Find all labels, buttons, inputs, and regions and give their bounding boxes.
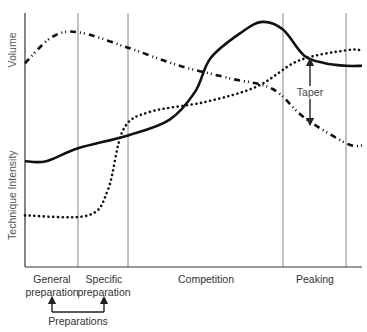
phase-label-peaking: Peaking <box>296 273 334 285</box>
y-label-volume: Volume <box>6 32 18 67</box>
preparations-label: Preparations <box>48 315 108 327</box>
series-group <box>25 22 362 217</box>
periodization-chart: Volume Intensity Technique General prepa… <box>0 0 367 332</box>
phase-label-general-line2: preparation <box>25 286 78 298</box>
phase-label-competition: Competition <box>178 273 234 285</box>
taper-label: Taper <box>297 86 324 98</box>
phase-label-specific-line1: Specific <box>86 273 123 285</box>
phase-dividers <box>78 13 346 267</box>
y-label-technique: Technique <box>6 192 18 240</box>
preparations-bracket <box>52 300 104 312</box>
y-label-intensity: Intensity <box>6 150 18 190</box>
series-line-technique <box>25 50 362 218</box>
phase-label-general-line1: General <box>33 273 70 285</box>
phase-label-specific-line2: preparation <box>77 286 130 298</box>
